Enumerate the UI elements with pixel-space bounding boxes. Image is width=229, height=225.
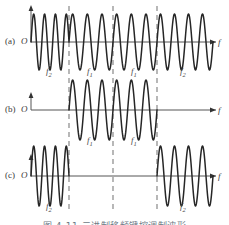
waveform-canvas [0,0,229,225]
segment-label-a-3: f1 [131,66,137,78]
panel-b-y-arrowhead [29,92,34,98]
segment-label-a-4: f2 [180,66,186,78]
panel-b-label: (b) [5,104,16,114]
panel-c-origin: O [21,170,28,180]
panel-b-origin: O [21,104,28,114]
figure-caption: 图 4-11 二进制移频键控调制波形 [0,219,229,225]
segment-label-a-1: f2 [46,66,52,78]
segment-label-a-2: f1 [87,66,93,78]
panel-c-axis-label: f [218,171,221,181]
panel-b [29,80,216,140]
panel-a-y-arrowhead [29,5,34,11]
segment-label-c-1: f2 [46,201,52,213]
panel-c [29,146,216,206]
panel-a-origin: O [21,36,28,46]
panel-b-x-arrowhead [210,108,216,113]
fsk-waveform-figure: (a) O f (b) O f (c) O f f2 f1 f1 f2 f1 f… [0,0,229,225]
segment-label-b-2: f1 [87,135,93,147]
panel-a-axis-label: f [218,37,221,47]
panel-a-label: (a) [5,36,15,46]
panel-b-axis-label: f [218,105,221,115]
segment-label-c-4: f2 [180,201,186,213]
panel-c-label: (c) [5,170,15,180]
segment-label-b-3: f1 [131,135,137,147]
panel-a [29,5,216,70]
